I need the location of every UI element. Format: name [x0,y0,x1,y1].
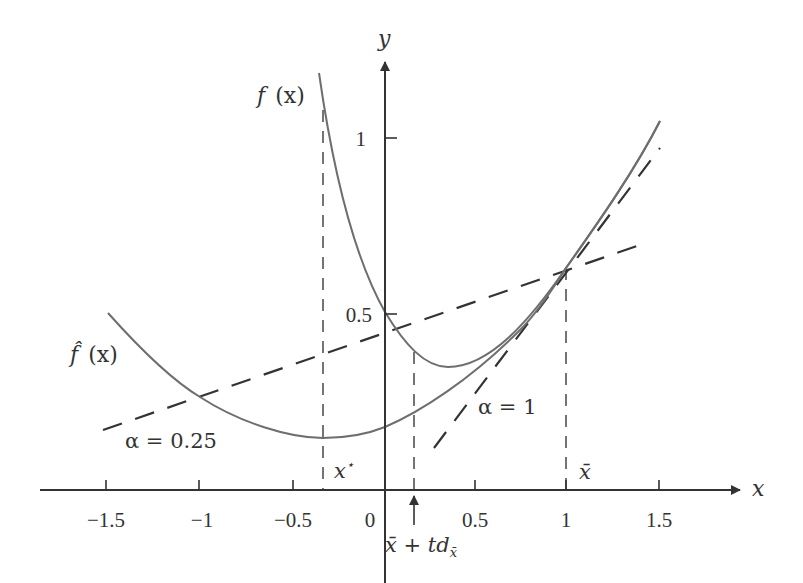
x-bar-label: x̄ [579,460,591,484]
x-axis-label: x [752,476,765,501]
y-axis-label: y [377,26,391,51]
y-ticks [385,138,397,314]
x-tick-label: 1.5 [646,508,672,532]
alpha-1-label: α = 1 [478,395,537,419]
optimization-diagram: −1.5 −1 −0.5 0 0.5 1 1.5 0.5 1 x y f (x)… [0,0,803,583]
x-tick-label: −1 [191,508,213,532]
x-tick-label: 1 [561,508,572,532]
y-tick-label: 0.5 [346,303,372,327]
x-star-label: x⋆ [334,457,354,483]
alpha-025-line [103,246,637,430]
x-tick-label: 0.5 [462,508,488,532]
f-label: f (x) [255,83,305,108]
x-tick-label: −0.5 [274,508,312,532]
alpha-025-label: α = 0.25 [125,429,217,453]
x-tick-label: −1.5 [87,508,125,532]
x-step-label: x̄ + tdx̄ [385,533,458,560]
y-tick-label: 1 [356,127,367,151]
x-ticks [106,480,659,490]
x-tick-label: 0 [365,508,376,532]
f-hat-label: f̂ (x) [68,341,118,367]
